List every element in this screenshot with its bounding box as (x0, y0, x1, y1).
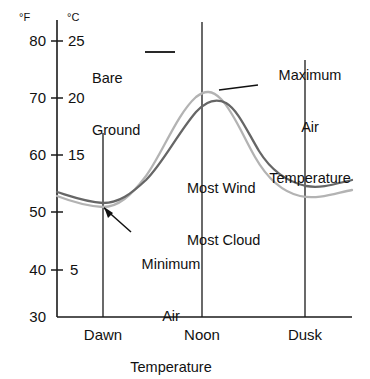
unit-label-fahrenheit: °F (19, 11, 30, 24)
annotation-minimum-line1: Minimum (113, 256, 229, 273)
annotation-maximum-line1: Maximum (252, 67, 368, 84)
y-tick-label-50f: 50 (12, 203, 46, 221)
annotation-bare-ground: Bare Ground (92, 36, 140, 173)
unit-label-celsius: °C (67, 11, 79, 24)
annotation-bare-ground-line1: Bare (92, 70, 140, 87)
leader-minimum-arrowhead (104, 207, 113, 218)
annotation-maximum-line2: Air (252, 119, 368, 136)
y-tick-label-15c: 15 (68, 146, 85, 164)
annotation-maximum-line3: Temperature (252, 170, 368, 187)
y-tick-label-5c: 5 (70, 261, 78, 279)
annotation-maximum-air-temperature: Maximum Air Temperature (252, 33, 368, 221)
y-tick-label-70f: 70 (12, 89, 46, 107)
annotation-bare-ground-line2: Ground (92, 122, 140, 139)
annotation-minimum-air-temperature: Minimum Air Temperature (113, 222, 229, 379)
x-tick-label-dusk: Dusk (273, 326, 337, 344)
annotation-minimum-line2: Air (113, 308, 229, 325)
annotation-wind-line1: Most Wind (187, 180, 260, 197)
y-tick-label-20c: 20 (68, 89, 85, 107)
annotation-minimum-line3: Temperature (113, 359, 229, 376)
y-tick-label-30f: 30 (12, 308, 46, 326)
y-tick-label-60f: 60 (12, 146, 46, 164)
y-tick-label-25c: 25 (68, 32, 85, 50)
y-tick-label-80f: 80 (12, 32, 46, 50)
y-tick-label-40f: 40 (12, 261, 46, 279)
